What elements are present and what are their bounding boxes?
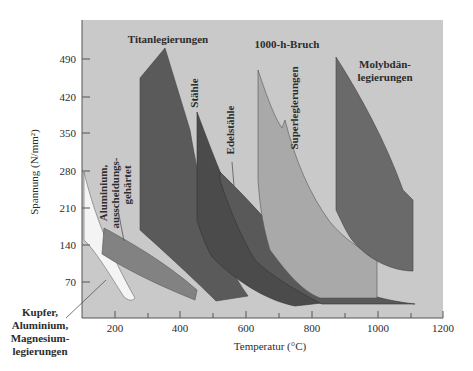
label-kupfer-1: Kupfer,	[22, 306, 58, 318]
y-tick-350: 350	[60, 127, 77, 139]
x-tick-800: 800	[304, 322, 321, 334]
label-aluminium-1: Aluminium,	[97, 164, 109, 221]
y-axis-title: Spannung (N/mm²)	[28, 129, 41, 215]
creep-rupture-chart: 70 140 210 280 350 420 490 200 400 600 8…	[0, 0, 473, 371]
y-tick-490: 490	[60, 53, 77, 65]
y-tick-70: 70	[65, 276, 77, 288]
label-molybdaen-1: Molybdän-	[359, 58, 411, 70]
label-molybdaen-2: legierungen	[358, 71, 413, 83]
x-axis-title: Temperatur (°C)	[234, 340, 307, 353]
x-tick-1000: 1000	[367, 322, 390, 334]
y-tick-280: 280	[60, 165, 77, 177]
y-tick-labels: 70 140 210 280 350 420 490	[60, 53, 77, 288]
x-tick-200: 200	[107, 322, 124, 334]
x-tick-600: 600	[238, 322, 255, 334]
x-tick-labels: 200 400 600 800 1000 1200	[107, 322, 455, 334]
label-aluminium-3: gehärtet	[121, 165, 133, 204]
y-tick-210: 210	[60, 202, 77, 214]
label-kupfer-3: Magnesium-	[11, 332, 70, 344]
label-staehle: Stähle	[188, 78, 200, 107]
label-titanlegierungen: Titanlegierungen	[128, 33, 208, 45]
y-tick-140: 140	[60, 239, 77, 251]
x-tick-400: 400	[172, 322, 189, 334]
y-tick-420: 420	[60, 91, 77, 103]
label-edelstaehle: Edelstähle	[224, 105, 236, 154]
label-superlegierungen: Superlegierungen	[288, 66, 300, 149]
label-kupfer-4: legierungen	[13, 345, 68, 357]
label-kupfer-2: Aluminium,	[12, 319, 69, 331]
chart-title: 1000-h-Bruch	[255, 38, 320, 50]
x-tick-1200: 1200	[432, 322, 455, 334]
